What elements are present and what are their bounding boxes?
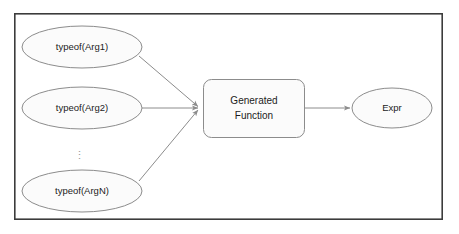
node-typeof-arg2[interactable]: typeof(Arg2) [22,87,142,129]
node-generated-function-label-line2: Function [235,110,273,121]
node-typeof-argn[interactable]: typeof(ArgN) [22,170,142,212]
node-typeof-arg1[interactable]: typeof(Arg1) [22,26,142,68]
node-generated-function[interactable]: Generated Function [204,80,305,138]
diagram-canvas: typeof(Arg1) typeof(Arg2) ⋮ typeof(ArgN)… [0,0,459,234]
node-generated-function-shape [204,80,305,138]
diagram-svg: typeof(Arg1) typeof(Arg2) ⋮ typeof(ArgN)… [0,0,459,234]
node-expr-label: Expr [382,102,402,113]
node-typeof-argn-label: typeof(ArgN) [55,185,109,196]
node-generated-function-label-line1: Generated [230,95,277,106]
node-typeof-arg2-label: typeof(Arg2) [56,102,108,113]
node-expr[interactable]: Expr [352,88,432,128]
node-typeof-arg1-label: typeof(Arg1) [56,41,108,52]
vertical-ellipsis-icon: ⋮ [74,149,85,161]
